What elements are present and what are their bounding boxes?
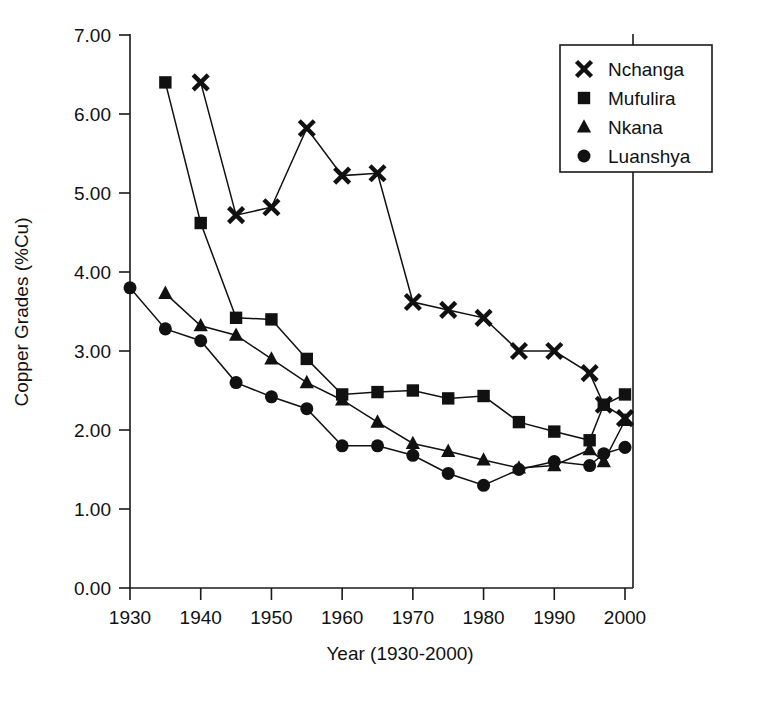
marker-x <box>229 208 244 223</box>
legend-entry-label: Nkana <box>608 117 663 138</box>
chart-legend: NchangaMufuliraNkanaLuanshya <box>560 45 712 172</box>
marker-x <box>582 366 597 381</box>
marker-x <box>264 200 279 215</box>
x-tick-label: 1970 <box>392 607 434 628</box>
marker-circle <box>300 402 313 415</box>
marker-circle <box>371 439 384 452</box>
y-axis-title: Copper Grades (%Cu) <box>11 217 32 406</box>
marker-square <box>598 399 610 411</box>
marker-square <box>442 392 454 404</box>
marker-circle <box>477 479 490 492</box>
x-axis-ticks: 19301940195019601970198019902000 <box>109 588 646 628</box>
x-tick-label: 2000 <box>604 607 646 628</box>
marker-square <box>407 384 419 396</box>
marker-square <box>265 313 277 325</box>
marker-circle <box>336 439 349 452</box>
marker-square <box>578 92 590 104</box>
y-tick-label: 7.00 <box>74 25 111 46</box>
series-nkana <box>158 286 632 474</box>
marker-square <box>230 312 242 324</box>
marker-x <box>476 310 491 325</box>
marker-circle <box>512 463 525 476</box>
y-tick-label: 3.00 <box>74 341 111 362</box>
marker-triangle <box>158 286 172 299</box>
marker-square <box>548 425 560 437</box>
marker-square <box>195 217 207 229</box>
marker-triangle <box>194 318 208 331</box>
copper-grades-line-chart: 0.001.002.003.004.005.006.007.00 1930194… <box>0 0 763 703</box>
marker-square <box>159 76 171 88</box>
marker-circle <box>577 149 590 162</box>
x-tick-label: 1990 <box>533 607 575 628</box>
marker-x <box>299 121 314 136</box>
x-axis-title: Year (1930-2000) <box>326 643 473 664</box>
marker-x <box>405 295 420 310</box>
marker-circle <box>442 467 455 480</box>
x-tick-label: 1940 <box>180 607 222 628</box>
y-tick-label: 0.00 <box>74 578 111 599</box>
x-tick-label: 1930 <box>109 607 151 628</box>
marker-circle <box>230 376 243 389</box>
marker-circle <box>618 441 631 454</box>
marker-circle <box>406 449 419 462</box>
legend-entry-label: Luanshya <box>608 146 691 167</box>
marker-circle <box>265 390 278 403</box>
y-tick-label: 2.00 <box>74 420 111 441</box>
marker-x <box>193 75 208 90</box>
legend-entry-label: Nchanga <box>608 59 684 80</box>
y-tick-label: 5.00 <box>74 183 111 204</box>
marker-circle <box>548 455 561 468</box>
x-tick-label: 1980 <box>462 607 504 628</box>
marker-triangle <box>406 436 420 449</box>
y-axis-ticks: 0.001.002.003.004.005.006.007.00 <box>74 25 130 599</box>
marker-square <box>619 388 631 400</box>
marker-triangle <box>370 414 384 427</box>
marker-circle <box>159 322 172 335</box>
marker-triangle <box>300 375 314 388</box>
x-tick-label: 1960 <box>321 607 363 628</box>
marker-circle <box>123 281 136 294</box>
marker-x <box>441 302 456 317</box>
legend-entry-label: Mufulira <box>608 88 676 109</box>
marker-square <box>477 390 489 402</box>
y-tick-label: 4.00 <box>74 262 111 283</box>
series-layer <box>123 75 632 492</box>
marker-circle <box>194 334 207 347</box>
marker-circle <box>583 459 596 472</box>
x-tick-label: 1950 <box>250 607 292 628</box>
marker-square <box>301 353 313 365</box>
y-tick-label: 1.00 <box>74 499 111 520</box>
y-tick-label: 6.00 <box>74 104 111 125</box>
marker-square <box>513 416 525 428</box>
marker-square <box>371 386 383 398</box>
chart-page: 0.001.002.003.004.005.006.007.00 1930194… <box>0 0 763 703</box>
marker-triangle <box>264 351 278 364</box>
marker-circle <box>597 447 610 460</box>
